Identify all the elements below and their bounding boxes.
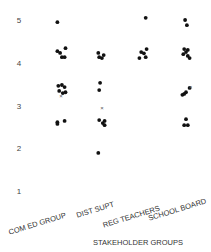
data-point-x-marker: × (59, 93, 63, 99)
data-points: ××× (56, 16, 193, 155)
data-point (97, 88, 101, 92)
data-point (138, 56, 142, 60)
y-tick-label: 1 (17, 187, 22, 196)
y-tick-label: 3 (17, 102, 22, 111)
data-point (56, 20, 60, 24)
data-point-x-marker: × (100, 105, 104, 111)
data-point (63, 55, 67, 59)
data-point (64, 46, 68, 50)
data-point (63, 119, 67, 123)
data-point (56, 122, 60, 126)
series-reg-teachers (138, 16, 149, 60)
data-point (184, 50, 188, 54)
y-tick-label: 4 (17, 59, 22, 68)
series-school-board: × (181, 18, 193, 127)
series-dist-supt: × (96, 51, 106, 155)
data-point (184, 117, 188, 121)
data-point (182, 123, 186, 127)
data-point (103, 119, 107, 123)
data-point (186, 123, 190, 127)
y-axis-ticks: 12345 (17, 16, 22, 196)
data-point-x-marker: × (189, 84, 193, 90)
data-point (56, 84, 60, 88)
x-category-label: DIST SUPT (75, 199, 115, 219)
data-point (63, 85, 67, 89)
data-point (103, 123, 107, 127)
data-point (144, 16, 148, 20)
data-point (100, 56, 104, 60)
y-tick-label: 2 (17, 144, 22, 153)
data-point (145, 47, 149, 51)
data-point (97, 118, 101, 122)
x-category-label: COM ED GROUP (7, 211, 67, 237)
scatter-chart: 12345 ××× COM ED GROUPDIST SUPTREG TEACH… (0, 0, 211, 252)
data-point (188, 56, 192, 60)
data-point (185, 23, 189, 27)
data-point (142, 51, 146, 55)
data-point (96, 51, 100, 55)
x-axis-category-labels: COM ED GROUPDIST SUPTREG TEACHERSSCHOOL … (7, 196, 207, 236)
data-point (181, 93, 185, 97)
data-point (183, 18, 187, 22)
data-point (96, 151, 100, 155)
data-point (58, 51, 62, 55)
y-tick-label: 5 (17, 16, 22, 25)
x-axis-title: STAKEHOLDER GROUPS (93, 238, 183, 247)
data-point (144, 55, 148, 59)
data-point (98, 81, 102, 85)
data-point (64, 90, 68, 94)
series-com-ed-group: × (56, 20, 68, 126)
